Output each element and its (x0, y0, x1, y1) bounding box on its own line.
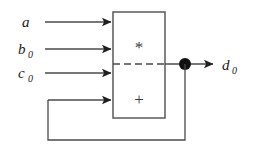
label-input-c: c (18, 65, 25, 81)
label-output-d-subscript: 0 (232, 65, 237, 76)
block-diagram-svg: a b 0 c 0 * + d 0 (0, 0, 263, 158)
input-wires-group (45, 22, 111, 100)
label-input-c-subscript: 0 (28, 73, 33, 84)
output-label-group: d 0 (222, 57, 237, 76)
multiply-symbol: * (135, 38, 144, 57)
input-labels-group: a b 0 c 0 (18, 14, 33, 84)
block-diagram-canvas: a b 0 c 0 * + d 0 (0, 0, 263, 158)
add-symbol: + (134, 90, 144, 109)
label-output-d: d (222, 57, 230, 73)
output-group (165, 58, 213, 70)
label-input-b-subscript: 0 (28, 49, 33, 60)
mac-unit-block: * + (113, 12, 165, 118)
label-input-a: a (22, 14, 30, 30)
label-input-b: b (18, 41, 26, 57)
